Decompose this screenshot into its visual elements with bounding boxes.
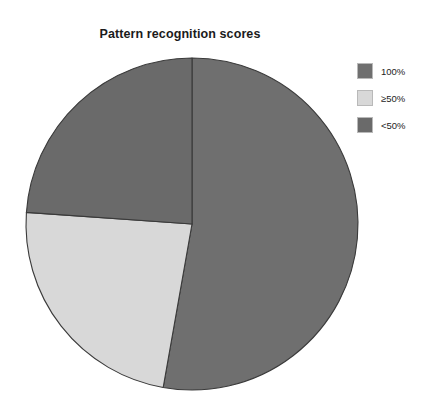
legend-item[interactable]: <50% [357,112,436,138]
pie-slice-group [26,58,358,390]
pie-chart-svg [0,0,372,412]
pie-slice-50[interactable] [26,212,192,387]
legend-item-label: 100% [381,66,405,77]
legend-item[interactable]: ≥50% [357,85,436,111]
legend: 100%≥50%<50% [357,58,436,139]
legend-swatch-ge50 [357,90,373,106]
legend-swatch-lt50 [357,117,373,133]
legend-item[interactable]: 100% [357,58,436,84]
legend-item-label: ≥50% [381,93,405,104]
legend-swatch-100 [357,63,373,79]
pie-chart [0,0,372,412]
legend-item-label: <50% [381,120,406,131]
pie-slice-50[interactable] [26,58,192,224]
figure-canvas: Pattern recognition scores 100%≥50%<50% [0,0,436,412]
